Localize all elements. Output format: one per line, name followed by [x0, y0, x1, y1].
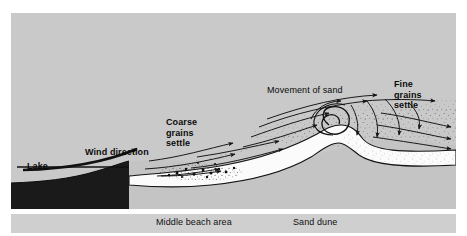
figure-wind-blown-sand-diagram: Lake Wind direction Coarse grains settle…: [0, 0, 467, 236]
label-coarse-line-2: grains: [166, 128, 197, 139]
diagram-panel: Lake Wind direction Coarse grains settle…: [11, 13, 456, 209]
diagram-canvas: [11, 13, 456, 209]
caption-middle-beach-area: Middle beach area: [156, 217, 232, 227]
label-coarse-line-3: settle: [166, 138, 197, 149]
label-fine-line-3: settle: [394, 100, 422, 111]
label-coarse-line-1: Coarse: [166, 117, 197, 128]
label-fine-line-1: Fine: [394, 79, 422, 90]
label-fine-line-2: grains: [394, 90, 422, 101]
label-lake: Lake: [27, 161, 48, 172]
label-movement-of-sand: Movement of sand: [267, 85, 343, 96]
label-wind-direction: Wind direction: [85, 147, 149, 158]
caption-sand-dune: Sand dune: [293, 217, 337, 227]
label-coarse-grains-settle: Coarse grains settle: [166, 117, 197, 149]
label-fine-grains-settle: Fine grains settle: [394, 79, 422, 111]
caption-strip: Middle beach area Sand dune: [11, 214, 456, 233]
